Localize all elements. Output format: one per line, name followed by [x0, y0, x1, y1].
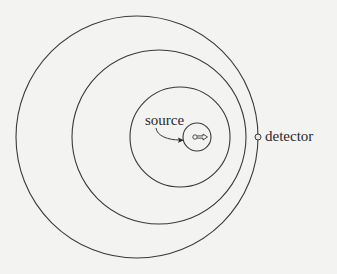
source-label: source: [145, 113, 184, 128]
second-wavefront-circle: [72, 50, 246, 224]
detector-point-icon: [255, 134, 261, 140]
source-pointer-arrow: [156, 128, 184, 143]
third-wavefront-circle: [130, 87, 230, 187]
detector-label: detector: [265, 129, 313, 144]
source-arrow-icon: [193, 134, 208, 140]
